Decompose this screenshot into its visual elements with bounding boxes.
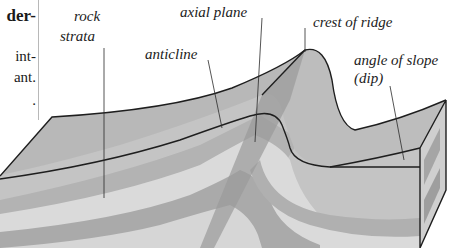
label-rock-strata-line2: strata	[60, 28, 95, 44]
label-axial-plane: axial plane	[180, 4, 247, 20]
label-dip: (dip)	[354, 70, 383, 86]
label-rock-strata-line1: rock	[74, 8, 100, 24]
label-anticline: anticline	[145, 46, 198, 62]
label-angle-of-slope: angle of slope	[354, 52, 438, 68]
label-crest-of-ridge: crest of ridge	[313, 14, 392, 30]
